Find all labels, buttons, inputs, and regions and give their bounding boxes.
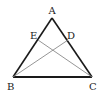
label-d: D — [67, 30, 75, 41]
label-b: B — [7, 81, 14, 92]
label-c: C — [89, 81, 97, 92]
segment-bd — [13, 40, 68, 77]
label-a: A — [48, 5, 57, 16]
segment-ce — [38, 40, 92, 77]
label-e: E — [30, 30, 37, 41]
side-ab — [13, 18, 52, 77]
side-ac — [52, 18, 92, 77]
triangle-diagram: A E D B C — [0, 0, 101, 95]
